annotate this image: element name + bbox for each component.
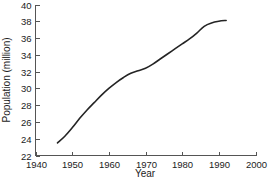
population-line-chart: 22242628303234363840 1940195019601970198… (0, 0, 268, 180)
y-tick-label: 36 (21, 33, 32, 44)
chart-canvas: 22242628303234363840 1940195019601970198… (0, 0, 268, 180)
x-tick-label: 1950 (62, 159, 83, 170)
x-tick-label: 1960 (99, 159, 120, 170)
x-axis-title: Year (135, 168, 156, 179)
y-tick-label: 28 (21, 100, 32, 111)
x-tick-label: 1980 (172, 159, 193, 170)
y-tick-label: 26 (21, 117, 32, 128)
y-tick-label: 30 (21, 83, 32, 94)
y-tick-label: 40 (21, 0, 32, 11)
y-axis-title: Population (million) (1, 37, 12, 122)
chart-background (0, 0, 268, 180)
x-tick-label: 1940 (26, 159, 47, 170)
y-tick-label: 38 (21, 16, 32, 27)
x-tick-label: 1990 (209, 159, 230, 170)
x-tick-label: 2000 (246, 159, 267, 170)
y-tick-label: 24 (21, 134, 32, 145)
y-tick-label: 32 (21, 67, 32, 78)
y-tick-label: 34 (21, 50, 32, 61)
